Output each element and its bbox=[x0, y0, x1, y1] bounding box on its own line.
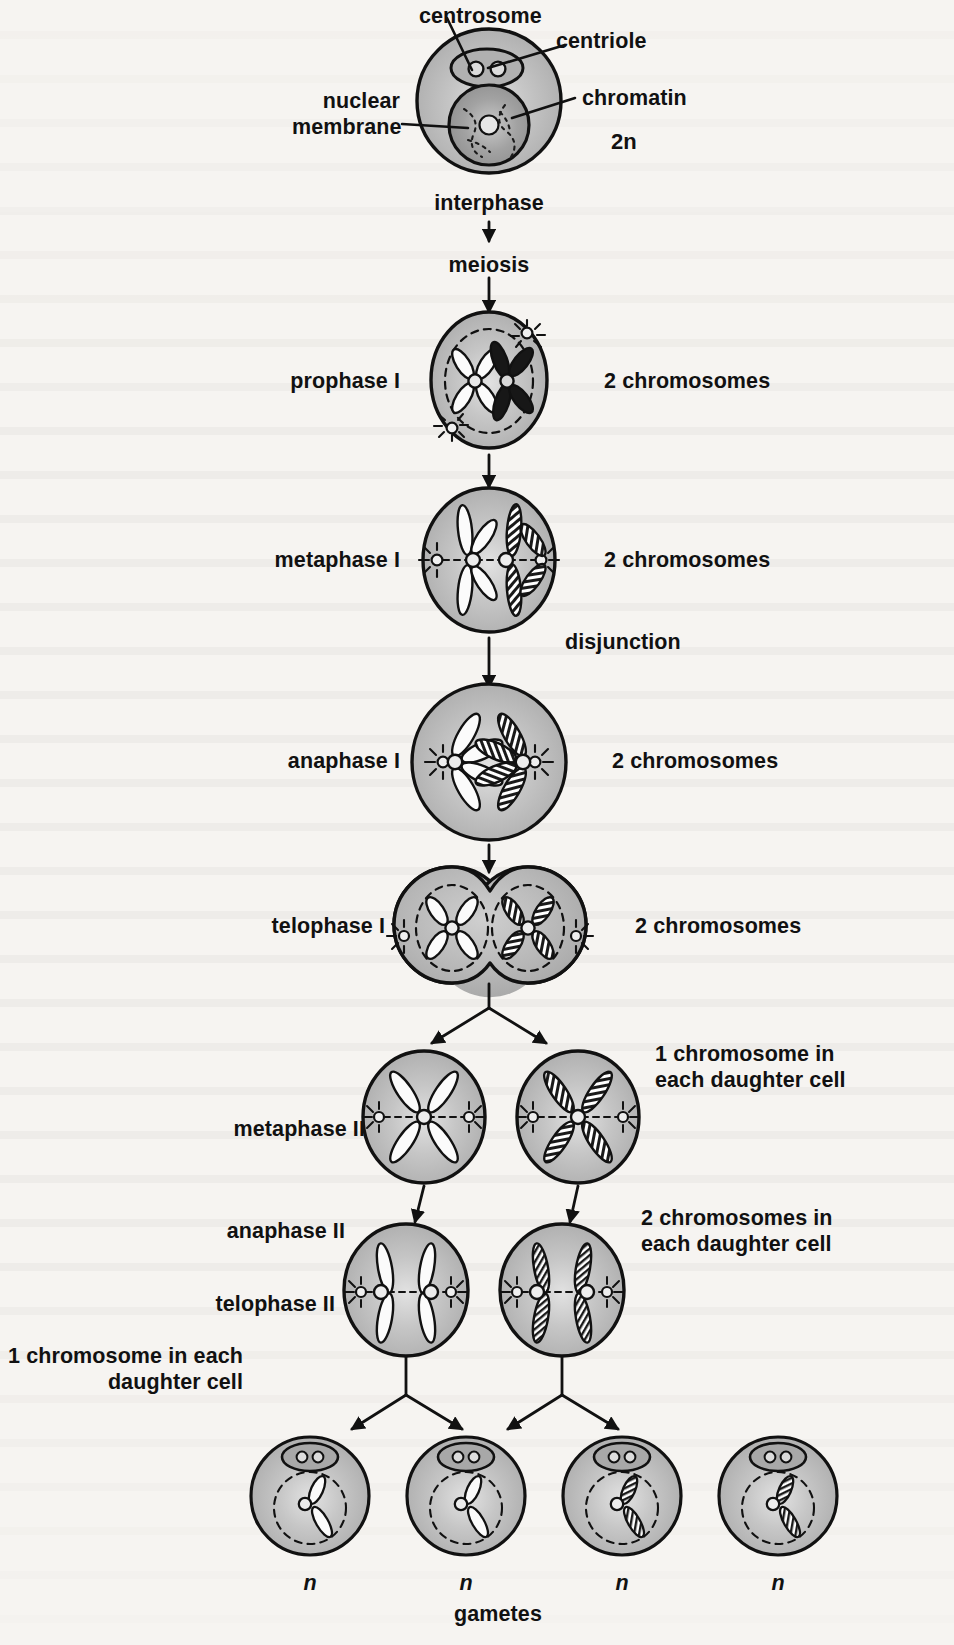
stage-label-metaphase-2: metaphase II bbox=[135, 1116, 365, 1142]
label-meiosis: meiosis bbox=[429, 252, 549, 278]
cell-gamete-4 bbox=[719, 1437, 837, 1555]
callout-centriole: centriole bbox=[556, 28, 647, 54]
ploidy-2n: 2n bbox=[611, 129, 637, 155]
cell-gamete-2 bbox=[407, 1437, 525, 1555]
ploidy-2n-text: 2n bbox=[611, 129, 637, 154]
callout-nuclear-membrane: nuclearmembrane bbox=[292, 88, 400, 140]
cell-anaphase-1 bbox=[412, 684, 566, 840]
count-metaphase-2-line2: each daughter cell bbox=[655, 1068, 846, 1092]
cell-anaphase-2-right bbox=[500, 1224, 624, 1356]
cell-anaphase-2-left bbox=[344, 1224, 468, 1356]
stage-label-telophase-2: telophase II bbox=[120, 1291, 335, 1317]
ploidy-n-gamete-1: n bbox=[280, 1570, 340, 1596]
arrows-to-anaphase-2 bbox=[415, 1186, 578, 1222]
cell-metaphase-2-left bbox=[363, 1051, 485, 1183]
callout-nuclear-membrane-line2: membrane bbox=[292, 115, 402, 139]
stage-label-metaphase-1: metaphase I bbox=[170, 547, 400, 573]
count-telophase-1: 2 chromosomes bbox=[635, 913, 801, 939]
cell-metaphase-1 bbox=[419, 488, 559, 632]
callout-chromatin: chromatin bbox=[582, 85, 687, 111]
label-interphase: interphase bbox=[419, 190, 559, 216]
cell-prophase-1 bbox=[431, 312, 547, 448]
callout-centrosome: centrosome bbox=[419, 3, 542, 29]
cell-telophase-1 bbox=[387, 867, 593, 997]
stage-label-telophase-1: telophase I bbox=[170, 913, 385, 939]
callout-nuclear-membrane-line1: nuclear bbox=[323, 89, 400, 113]
ploidy-n-gamete-4: n bbox=[748, 1570, 808, 1596]
cell-gamete-1 bbox=[251, 1437, 369, 1555]
cell-metaphase-2-right bbox=[517, 1051, 639, 1183]
meiosis-artwork bbox=[0, 0, 954, 1645]
branches-to-gametes bbox=[352, 1357, 618, 1429]
count-telophase-2-line2: daughter cell bbox=[108, 1370, 243, 1394]
count-anaphase-2-line1: 2 chromosomes in bbox=[641, 1206, 833, 1230]
count-prophase-1: 2 chromosomes bbox=[604, 368, 770, 394]
label-disjunction: disjunction bbox=[565, 629, 681, 655]
stage-label-anaphase-1: anaphase I bbox=[170, 748, 400, 774]
cell-gamete-3 bbox=[563, 1437, 681, 1555]
count-anaphase-1: 2 chromosomes bbox=[612, 748, 778, 774]
count-metaphase-2-line1: 1 chromosome in bbox=[655, 1042, 835, 1066]
count-metaphase-2: 1 chromosome ineach daughter cell bbox=[655, 1041, 846, 1093]
branch-to-metaphase-2 bbox=[432, 984, 546, 1043]
count-anaphase-2-line2: each daughter cell bbox=[641, 1232, 832, 1256]
label-gametes: gametes bbox=[418, 1601, 578, 1627]
stage-label-anaphase-2: anaphase II bbox=[115, 1218, 345, 1244]
count-telophase-2-line1: 1 chromosome in each bbox=[8, 1344, 243, 1368]
count-telophase-2: 1 chromosome in eachdaughter cell bbox=[0, 1343, 243, 1395]
count-metaphase-1: 2 chromosomes bbox=[604, 547, 770, 573]
count-anaphase-2: 2 chromosomes ineach daughter cell bbox=[641, 1205, 833, 1257]
ploidy-n-gamete-2: n bbox=[436, 1570, 496, 1596]
ploidy-n-gamete-3: n bbox=[592, 1570, 652, 1596]
stage-label-prophase-1: prophase I bbox=[170, 368, 400, 394]
cell-interphase bbox=[402, 18, 575, 173]
meiosis-diagram: centrosome centriole nuclearmembrane chr… bbox=[0, 0, 954, 1645]
